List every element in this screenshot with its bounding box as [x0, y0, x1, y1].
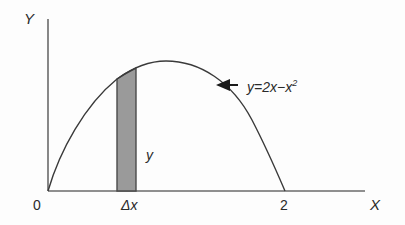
equation-exponent: 2	[292, 78, 297, 88]
x-tick-label-2: 2	[280, 198, 288, 212]
strip-width-label: Δx	[121, 198, 137, 212]
y-axis-label: Y	[24, 11, 34, 26]
curve-equation-label: y=2x−x2	[247, 79, 297, 94]
arrow-head-icon	[216, 79, 230, 91]
diagram-graphics	[0, 0, 405, 225]
area-strip	[117, 68, 136, 191]
x-axis-label: X	[370, 197, 380, 212]
area-under-parabola-diagram: Y X 0 2 Δx y y=2x−x2	[0, 0, 405, 225]
origin-label: 0	[33, 198, 41, 212]
strip-height-label: y	[146, 148, 153, 162]
equation-text: y=2x−x	[247, 79, 292, 95]
